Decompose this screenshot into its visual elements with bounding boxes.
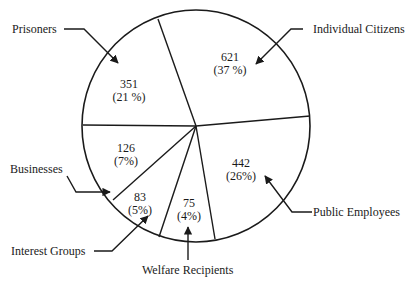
- label-public-employees: Public Employees: [313, 206, 400, 219]
- label-businesses: Businesses: [10, 163, 63, 176]
- label-interest-groups: Interest Groups: [11, 245, 85, 258]
- value-prisoners: 351 (21 %): [104, 78, 154, 104]
- value-citizens-percent: (37 %): [205, 64, 255, 77]
- label-welfare-recipients: Welfare Recipients: [142, 264, 233, 277]
- value-public-employees: 442 (26%): [216, 157, 266, 183]
- value-prisoners-percent: (21 %): [104, 91, 154, 104]
- value-interest-percent: (5%): [115, 204, 165, 217]
- value-businesses-percent: (7%): [101, 155, 151, 168]
- label-prisoners: Prisoners: [12, 23, 57, 36]
- value-welfare: 75 (4%): [164, 197, 214, 223]
- value-public-percent: (26%): [216, 170, 266, 183]
- label-individual-citizens: Individual Citizens: [313, 23, 405, 36]
- pie-chart: [0, 0, 412, 284]
- value-businesses: 126 (7%): [101, 142, 151, 168]
- value-welfare-percent: (4%): [164, 210, 214, 223]
- value-citizens: 621 (37 %): [205, 51, 255, 77]
- value-interest-groups: 83 (5%): [115, 191, 165, 217]
